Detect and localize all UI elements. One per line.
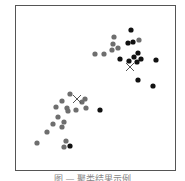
data-point: [61, 119, 66, 124]
data-point: [61, 144, 66, 149]
data-point: [115, 45, 120, 50]
data-point: [131, 54, 136, 59]
centroid-marker: [73, 95, 81, 103]
figure-caption: 图 — 聚类结果示例: [0, 174, 185, 181]
data-point: [73, 107, 78, 112]
data-point: [67, 143, 72, 148]
data-point: [82, 96, 87, 101]
data-point: [92, 51, 97, 56]
data-point: [59, 98, 64, 103]
data-point: [44, 129, 49, 134]
data-point: [109, 47, 114, 52]
data-point: [135, 77, 140, 82]
centroid-marker: [126, 63, 134, 71]
data-point: [55, 114, 60, 119]
data-point: [134, 59, 139, 64]
data-point: [111, 34, 116, 39]
data-point: [150, 83, 155, 88]
data-point: [130, 39, 135, 44]
data-point: [50, 121, 55, 126]
data-point: [110, 41, 115, 46]
data-point: [101, 51, 106, 56]
data-point: [59, 124, 64, 129]
data-point: [67, 91, 72, 96]
data-point: [135, 50, 140, 55]
data-point: [65, 108, 70, 113]
data-point: [153, 57, 158, 62]
data-point: [125, 40, 130, 45]
data-point: [97, 107, 102, 112]
data-point: [34, 140, 39, 145]
data-point: [63, 138, 68, 143]
data-point: [128, 27, 133, 32]
data-point: [117, 56, 122, 61]
data-point: [53, 104, 58, 109]
data-point: [136, 37, 141, 42]
scatter-plot: [0, 0, 185, 181]
data-point: [83, 105, 88, 110]
data-point: [126, 58, 131, 63]
